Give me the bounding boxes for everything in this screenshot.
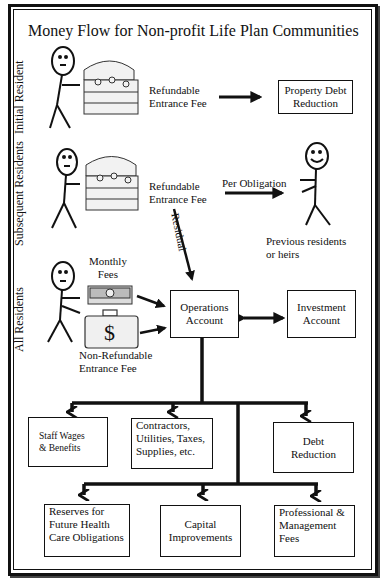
stick-figure-heirs-icon [300, 143, 330, 225]
refundable-fee-initial: RefundableEntrance Fee [149, 84, 207, 110]
stick-figure-all-icon [48, 262, 80, 342]
debt-reduction-box: DebtReduction [273, 422, 354, 473]
refundable-fee-subsequent: RefundableEntrance Fee [149, 180, 207, 206]
monthly-fees-label: MonthlyFees [89, 255, 127, 281]
per-obligation-label: Per Obligation [222, 177, 286, 190]
capital-improvements-box: CapitalImprovements [160, 505, 241, 557]
staff-wages-box: Staff Wages& Benefits [28, 417, 108, 467]
arrow-nonref-to-ops [140, 328, 165, 333]
money-stack-icon [88, 286, 132, 304]
dollar-sign-icon: $ [104, 320, 115, 345]
treasure-chest-icon [86, 157, 138, 211]
contractors-box: Contractors,Utilities, Taxes,Supplies, e… [131, 418, 213, 469]
treasure-chest-icon [84, 61, 138, 114]
previous-residents-label: Previous residentsor heirs [266, 235, 346, 261]
stick-figure-subsequent-icon [52, 149, 80, 228]
arrow-monthly-to-ops [137, 296, 164, 306]
investment-account-box: InvestmentAccount [287, 290, 356, 338]
non-refundable-fee-label: Non-RefundableEntrance Fee [79, 349, 152, 375]
stick-figure-initial-icon [50, 47, 80, 128]
professional-fees-box: Professional &ManagementFees [274, 505, 355, 557]
operations-account-box: OperationsAccount [170, 290, 239, 338]
reserves-health-care-box: Reserves forFuture HealthCare Obligation… [44, 504, 130, 557]
property-debt-reduction-box: Property DebtReduction [278, 80, 353, 114]
